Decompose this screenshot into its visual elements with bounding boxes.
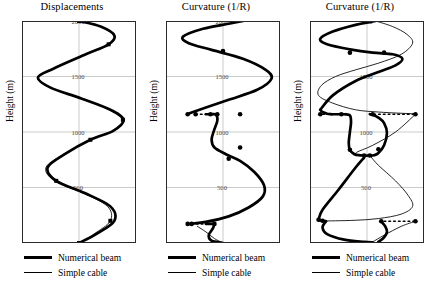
panel-curvature-right: Curvature (1/R) Height (m) 0500100015002… <box>288 0 432 285</box>
data-point-marker <box>226 156 231 161</box>
data-point-marker <box>316 217 321 222</box>
data-point-marker <box>318 112 323 117</box>
figure-root: Displacements Height (m) 050010001500200… <box>0 0 432 285</box>
plot-area: 0500100015002000 <box>22 21 136 243</box>
curve-numerical-beam <box>182 21 272 114</box>
legend-label-numerical-beam: Numerical beam <box>346 253 409 263</box>
data-point-marker <box>193 112 198 117</box>
legend: Numerical beam Simple cable <box>312 250 432 280</box>
y-tick-label: 1000 <box>359 129 373 136</box>
panel-title: Curvature (1/R) <box>144 1 288 12</box>
legend-label-simple-cable: Simple cable <box>58 268 107 278</box>
legend-row-numerical-beam: Numerical beam <box>24 250 144 265</box>
data-point-marker <box>54 179 58 183</box>
data-point-marker <box>320 219 325 224</box>
plot-area: 0500100015002000 <box>166 21 280 243</box>
data-point-marker <box>121 118 125 122</box>
panel-title: Displacements <box>0 1 144 12</box>
legend-swatch-thick-line <box>168 256 196 259</box>
data-point-marker <box>348 147 353 152</box>
legend-row-numerical-beam: Numerical beam <box>312 250 432 265</box>
legend-label-numerical-beam: Numerical beam <box>202 253 265 263</box>
data-point-marker <box>185 112 190 117</box>
data-point-marker <box>362 153 367 158</box>
plot-svg: 0500100015002000 <box>166 21 280 243</box>
panel-title: Curvature (1/R) <box>288 1 432 12</box>
data-point-marker <box>107 42 111 46</box>
y-axis-label: Height (m) <box>149 65 159 137</box>
plot-svg: 0500100015002000 <box>310 21 424 243</box>
data-point-marker <box>88 138 92 142</box>
legend-swatch-thick-line <box>312 256 340 259</box>
curve-numerical-beam <box>319 158 365 220</box>
legend-label-simple-cable: Simple cable <box>202 268 251 278</box>
legend-row-simple-cable: Simple cable <box>312 265 432 280</box>
legend-label-numerical-beam: Numerical beam <box>58 253 121 263</box>
legend-swatch-thick-line <box>24 256 52 259</box>
panel-curvature-mid: Curvature (1/R) Height (m) 0500100015002… <box>144 0 288 285</box>
data-point-marker <box>221 49 226 54</box>
data-point-marker <box>215 112 220 117</box>
y-axis-label: Height (m) <box>5 65 15 137</box>
legend: Numerical beam Simple cable <box>24 250 144 280</box>
y-axis-label: Height (m) <box>293 65 303 137</box>
data-point-marker <box>339 112 344 117</box>
data-point-marker <box>370 112 375 117</box>
legend-label-simple-cable: Simple cable <box>346 268 395 278</box>
curve-simple-cable <box>318 21 416 114</box>
y-tick-label: 1500 <box>71 73 85 80</box>
data-point-marker <box>189 222 194 227</box>
curve-numerical-beam <box>378 221 387 242</box>
data-point-marker <box>382 50 387 55</box>
y-tick-label: 1000 <box>71 129 85 136</box>
legend-row-simple-cable: Simple cable <box>168 265 288 280</box>
data-point-marker <box>238 112 243 117</box>
legend-row-numerical-beam: Numerical beam <box>168 250 288 265</box>
data-point-marker <box>413 219 418 224</box>
legend-swatch-thin-line <box>24 272 52 273</box>
legend: Numerical beam Simple cable <box>168 250 288 280</box>
data-point-marker <box>108 219 112 223</box>
curve-numerical-beam <box>320 21 402 110</box>
data-point-marker <box>238 145 243 150</box>
legend-row-simple-cable: Simple cable <box>24 265 144 280</box>
plot-area: 0500100015002000 <box>310 21 424 243</box>
data-point-marker <box>368 153 373 158</box>
y-tick-label: 500 <box>361 184 372 191</box>
data-point-marker <box>185 222 190 227</box>
legend-swatch-thin-line <box>312 272 340 273</box>
y-tick-label: 1500 <box>215 73 229 80</box>
data-point-marker <box>379 219 384 224</box>
y-tick-label: 500 <box>217 184 228 191</box>
data-point-marker <box>348 50 353 55</box>
data-point-marker <box>376 147 381 152</box>
panel-displacements: Displacements Height (m) 050010001500200… <box>0 0 144 285</box>
data-point-marker <box>208 112 213 117</box>
y-tick-label: 1000 <box>215 129 229 136</box>
data-point-marker <box>212 222 217 227</box>
curve-simple-cable <box>373 221 416 242</box>
data-point-marker <box>413 112 418 117</box>
plot-svg: 0500100015002000 <box>22 21 136 243</box>
legend-swatch-thin-line <box>168 272 196 273</box>
